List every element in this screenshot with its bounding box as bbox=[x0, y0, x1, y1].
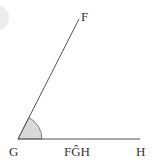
corner-circle-decoration bbox=[0, 5, 9, 31]
angle-arc-sector bbox=[18, 118, 42, 140]
point-label-g: G bbox=[9, 144, 18, 159]
point-label-h: H bbox=[136, 144, 145, 159]
point-label-f: F bbox=[81, 9, 88, 24]
angle-label: FĜH bbox=[64, 144, 90, 159]
angle-diagram: F G FĜH H bbox=[0, 0, 158, 168]
ray-gf bbox=[18, 19, 79, 139]
